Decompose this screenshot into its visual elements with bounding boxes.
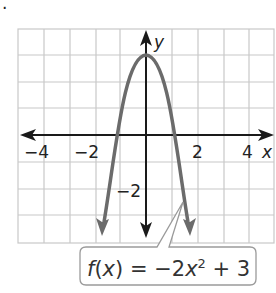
problem-marker: . <box>2 0 7 13</box>
x-tick-2: 2 <box>192 142 203 162</box>
x-axis-label: x <box>261 142 273 162</box>
y-axis-label: y <box>153 32 165 52</box>
function-graph: . y x −4 −2 2 4 −2 <box>0 0 276 293</box>
x-tick-neg4: −4 <box>24 142 49 162</box>
y-tick-neg2: −2 <box>116 181 141 201</box>
x-tick-4: 4 <box>242 142 253 162</box>
axes <box>20 30 274 238</box>
x-tick-neg2: −2 <box>74 142 99 162</box>
equation-label: f(x) = −2x2 + 3 <box>87 256 250 281</box>
